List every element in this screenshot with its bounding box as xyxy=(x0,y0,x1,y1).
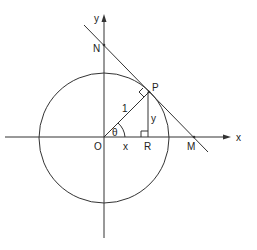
label-vertical-leg: y xyxy=(151,113,156,124)
right-angle-P xyxy=(139,88,144,97)
right-angle-R xyxy=(141,131,148,137)
label-M: M xyxy=(187,141,195,152)
label-radius: 1 xyxy=(122,103,128,114)
point-N xyxy=(103,44,106,47)
label-x-axis: x xyxy=(236,132,241,143)
radius-OP xyxy=(104,92,149,137)
point-M xyxy=(193,136,196,139)
label-y-axis: y xyxy=(94,13,99,24)
label-N: N xyxy=(93,43,100,54)
angle-arc-theta xyxy=(118,123,125,137)
label-O: O xyxy=(94,141,102,152)
x-axis-arrow-icon xyxy=(223,135,231,140)
tangent-line xyxy=(84,25,208,152)
label-theta: θ xyxy=(112,127,118,138)
unit-circle-diagram: y x N P 1 y θ O x R M xyxy=(0,0,257,250)
y-axis-arrow-icon xyxy=(102,14,107,22)
label-horizontal-leg: x xyxy=(123,141,128,152)
point-P xyxy=(148,91,151,94)
label-P: P xyxy=(152,82,159,93)
label-R: R xyxy=(144,141,151,152)
